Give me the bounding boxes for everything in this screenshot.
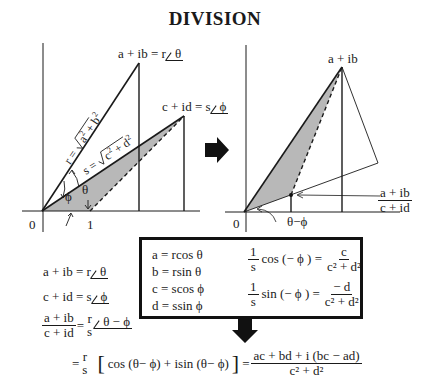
identity-box: a = rcos θ b = rsin θ c = scos ϕ d = ssi…	[139, 237, 363, 319]
equation-cd: c + id = sϕ	[43, 290, 109, 304]
quotient-pointer	[297, 192, 380, 198]
identity-cos: 1s cos (− ϕ ) = cc² + d²	[248, 245, 363, 273]
phi-label: ϕ	[65, 190, 72, 203]
theta-label: θ	[82, 183, 88, 196]
vector-ab-right	[244, 67, 342, 212]
def-a: a = rcos θ	[152, 247, 203, 263]
angle-symbol: ϕ	[92, 290, 110, 304]
identity-sin: 1s sin (− ϕ ) = − dc² + d²	[248, 280, 361, 308]
right-diagram	[225, 45, 400, 232]
point-ab-label-left: a + ib = rθ	[118, 47, 183, 61]
def-c: c = scos ϕ	[152, 281, 204, 297]
down-arrow-icon	[232, 318, 258, 343]
quotient-fraction: a + ib c + id	[378, 186, 412, 214]
unit-label: 1	[87, 218, 94, 231]
origin-label-right: 0	[233, 217, 240, 230]
right-arrow-icon	[205, 137, 229, 163]
angle-symbol: θ	[91, 265, 108, 279]
angle-symbol: θ − ϕ	[94, 315, 132, 329]
angle-symbol: ϕ	[211, 100, 229, 114]
triangle-side-1	[342, 67, 378, 163]
angle-diff-label: θ−ϕ	[287, 215, 307, 228]
angle-pointer	[257, 206, 276, 222]
def-b: b = rsin θ	[152, 264, 201, 280]
left-bracket: [	[97, 352, 104, 374]
origin-label-left: 0	[29, 218, 36, 231]
phi-pointer	[66, 213, 73, 226]
quotient-point	[289, 193, 293, 197]
def-d: d = ssin ϕ	[152, 298, 203, 314]
right-bracket: ]	[232, 352, 239, 374]
theta-arc	[72, 171, 79, 187]
quotient-label: a + ib c + id	[378, 186, 412, 214]
point-cd-label-left: c + id = sϕ	[162, 100, 228, 114]
final-equation: = r s [ cos (θ− ϕ) + isin (θ− ϕ) ] = ac …	[72, 349, 362, 377]
theta-arrow-top	[69, 170, 75, 174]
left-diagram	[22, 43, 200, 232]
angle-symbol: θ	[166, 47, 183, 61]
svg-text:r =: r =	[61, 147, 80, 166]
r-label-group: r = a2 + b2	[60, 110, 105, 167]
equation-ab: a + ib = rθ	[43, 265, 108, 279]
equation-quotient: a + ib c + id = r s θ − ϕ	[42, 311, 132, 339]
point-ab-label-right: a + ib	[328, 52, 358, 65]
svg-text:a2 + b2: a2 + b2	[75, 110, 105, 145]
